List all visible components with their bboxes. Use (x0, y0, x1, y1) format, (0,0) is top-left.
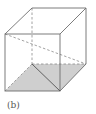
edge-top-right-depth (60, 8, 86, 34)
figure-caption: (b) (7, 100, 20, 110)
hidden-diagonal (5, 34, 86, 64)
cube-diagram: (b) (0, 0, 96, 114)
edge-top-left-depth (5, 8, 32, 34)
cube-svg (0, 0, 96, 114)
